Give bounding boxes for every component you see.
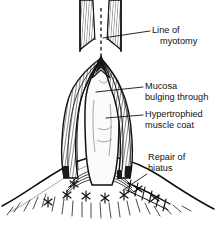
label-mucosa-line1: Mucosa [145,81,178,91]
label-line-of-myotomy-line1: Line of [152,25,180,35]
anatomical-illustration: Line of myotomy Mucosa bulging through H… [0,0,222,225]
label-repair-line1: Repair of [148,152,186,162]
label-line-of-myotomy-line2: myotomy [160,36,198,46]
label-mucosa-line2: bulging through [145,92,208,102]
illustration-canvas: Line of myotomy Mucosa bulging through H… [0,0,222,225]
label-repair-line2: hiatus [148,163,173,173]
label-muscle-coat-line1: Hypertrophied [145,109,203,119]
label-muscle-coat-line2: muscle coat [145,120,194,130]
